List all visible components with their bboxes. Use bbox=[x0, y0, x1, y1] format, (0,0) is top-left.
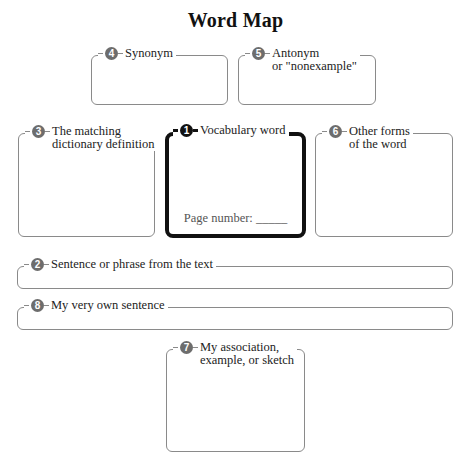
divider bbox=[44, 305, 49, 306]
page-number-field[interactable]: Page number: _____ bbox=[169, 211, 302, 226]
number-badge: 5 bbox=[252, 47, 265, 60]
number-badge: 8 bbox=[31, 299, 44, 312]
synonym-box[interactable]: 4 Synonym bbox=[91, 55, 228, 105]
divider bbox=[173, 347, 178, 348]
divider bbox=[45, 131, 50, 132]
divider bbox=[208, 266, 444, 267]
divider bbox=[25, 131, 30, 132]
divider bbox=[193, 129, 198, 132]
divider bbox=[265, 53, 270, 54]
association-label: 7 My association, example, or sketch bbox=[173, 341, 297, 367]
sentence-from-text-label: 2 Sentence or phrase from the text bbox=[24, 258, 216, 271]
antonym-box[interactable]: 5 Antonym or "nonexample" bbox=[238, 55, 376, 105]
synonym-label: 4 Synonym bbox=[98, 47, 176, 60]
own-sentence-box[interactable]: 8 My very own sentence bbox=[17, 307, 453, 330]
number-badge: 6 bbox=[329, 125, 342, 138]
number-badge: 7 bbox=[180, 341, 193, 354]
number-badge: 1 bbox=[180, 124, 193, 137]
antonym-label: 5 Antonym or "nonexample" bbox=[245, 47, 360, 73]
vocabulary-word-box[interactable]: 1 Vocabulary word Page number: _____ bbox=[165, 132, 306, 238]
other-forms-box[interactable]: 6 Other forms of the word bbox=[315, 133, 453, 237]
divider bbox=[322, 131, 327, 132]
divider bbox=[98, 53, 103, 54]
divider bbox=[118, 53, 123, 54]
number-badge: 4 bbox=[105, 47, 118, 60]
other-forms-label: 6 Other forms of the word bbox=[322, 125, 413, 151]
divider bbox=[173, 129, 178, 132]
number-badge: 2 bbox=[31, 258, 44, 271]
own-sentence-label: 8 My very own sentence bbox=[24, 299, 168, 312]
divider bbox=[24, 264, 29, 265]
vocabulary-word-label: 1 Vocabulary word bbox=[173, 124, 289, 137]
definition-label: 3 The matching dictionary definition bbox=[25, 125, 157, 151]
association-box[interactable]: 7 My association, example, or sketch bbox=[166, 349, 305, 452]
divider bbox=[342, 131, 347, 132]
divider bbox=[44, 264, 49, 265]
definition-box[interactable]: 3 The matching dictionary definition bbox=[18, 133, 155, 237]
divider bbox=[150, 307, 444, 308]
divider bbox=[24, 305, 29, 306]
sentence-from-text-box[interactable]: 2 Sentence or phrase from the text bbox=[17, 266, 453, 289]
divider bbox=[245, 53, 250, 54]
page-title: Word Map bbox=[0, 9, 471, 32]
number-badge: 3 bbox=[32, 125, 45, 138]
divider bbox=[193, 347, 198, 348]
